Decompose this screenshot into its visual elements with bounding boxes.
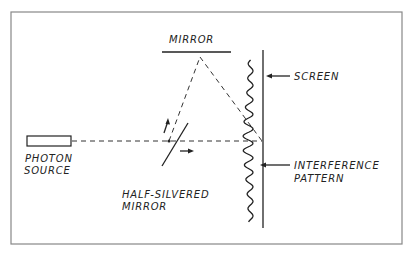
- screen-label: SCREEN: [294, 71, 339, 82]
- photon-source-label-1: PHOTON: [25, 153, 73, 164]
- interference-label-1: INTERFERENCE: [294, 160, 380, 171]
- diagram-frame: [11, 12, 402, 244]
- arrow-right-icon: [180, 149, 194, 154]
- diagram-canvas: PHOTON SOURCE HALF-SILVERED MIRROR MIRRO…: [0, 0, 419, 266]
- interference-pointer-icon: [260, 163, 290, 168]
- screen-pointer-icon: [266, 74, 290, 79]
- half-silvered-mirror: [162, 123, 188, 166]
- interference-label-2: PATTERN: [294, 173, 344, 184]
- arrow-up-icon: [164, 118, 170, 133]
- half-silvered-label-1: HALF-SILVERED: [122, 189, 209, 200]
- half-silvered-label-2: MIRROR: [122, 201, 167, 212]
- photon-source-label-2: SOURCE: [24, 165, 71, 176]
- photon-source: [27, 136, 71, 146]
- mirror-label: MIRROR: [169, 34, 214, 45]
